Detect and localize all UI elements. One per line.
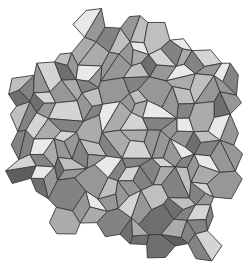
foam-figure	[0, 0, 249, 263]
foam-render-svg	[0, 0, 249, 263]
page	[0, 0, 249, 263]
